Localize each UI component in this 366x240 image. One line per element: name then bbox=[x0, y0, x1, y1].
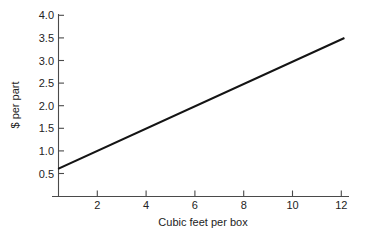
x-axis-title: Cubic feet per box bbox=[158, 216, 248, 228]
x-tick-label: 8 bbox=[241, 199, 247, 211]
y-tick-label: 1.0 bbox=[39, 145, 54, 157]
x-tick-label: 10 bbox=[286, 199, 298, 211]
y-tick-label: 3.0 bbox=[39, 55, 54, 67]
x-tick-label: 4 bbox=[143, 199, 149, 211]
chart-container: 0.5 1.0 1.5 2.0 2.5 3.0 3.5 4.0 2 4 6 8 … bbox=[0, 0, 366, 240]
y-tick-label: 0.5 bbox=[39, 168, 54, 180]
x-tick-label: 2 bbox=[94, 199, 100, 211]
y-axis-title: $ per part bbox=[9, 81, 21, 128]
y-tick-label: 3.5 bbox=[39, 32, 54, 44]
y-tick-label: 1.5 bbox=[39, 122, 54, 134]
y-tick-label: 2.0 bbox=[39, 100, 54, 112]
chart-background bbox=[0, 0, 366, 240]
x-tick-label: 12 bbox=[335, 199, 347, 211]
x-tick-label: 6 bbox=[192, 199, 198, 211]
y-tick-label: 4.0 bbox=[39, 9, 54, 21]
line-chart: 0.5 1.0 1.5 2.0 2.5 3.0 3.5 4.0 2 4 6 8 … bbox=[0, 0, 366, 240]
y-tick-label: 2.5 bbox=[39, 77, 54, 89]
